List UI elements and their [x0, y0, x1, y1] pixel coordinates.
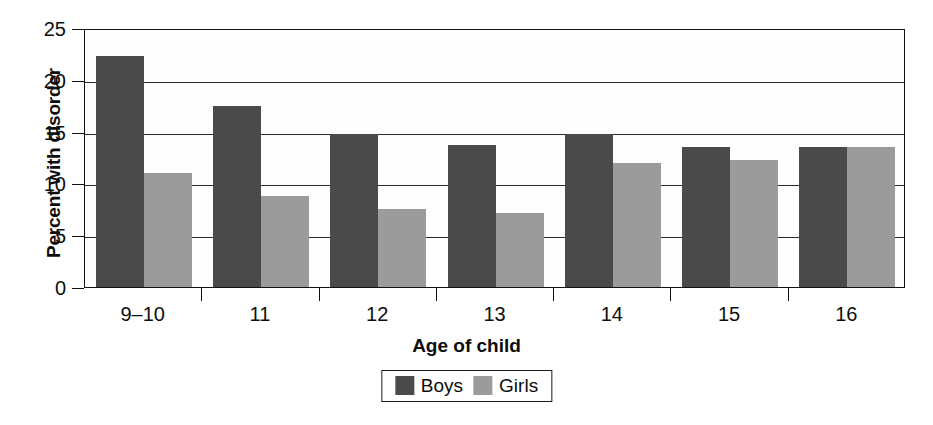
bar-boys-15[interactable] — [682, 147, 730, 287]
bar-group — [799, 30, 895, 287]
bar-boys-16[interactable] — [799, 147, 847, 287]
bar-girls-15[interactable] — [730, 160, 778, 287]
y-tick-label: 15 — [14, 123, 66, 143]
plot-area — [84, 29, 905, 288]
legend-label-boys: Boys — [421, 376, 463, 395]
y-tick-mark — [72, 184, 84, 185]
legend-label-girls: Girls — [499, 376, 538, 395]
bar-group — [213, 30, 309, 287]
x-tick-label: 9–10 — [83, 303, 203, 326]
y-tick-label: 10 — [14, 174, 66, 194]
x-tick-label: 15 — [669, 303, 789, 326]
y-tick-mark — [72, 236, 84, 237]
x-tick-mark — [670, 288, 671, 301]
x-tick-label: 11 — [200, 303, 320, 326]
bar-boys-14[interactable] — [565, 134, 613, 287]
x-tick-mark — [436, 288, 437, 301]
bar-girls-13[interactable] — [496, 213, 544, 287]
legend-swatch-girls — [473, 376, 492, 395]
y-tick-label: 25 — [14, 19, 66, 39]
x-axis-title: Age of child — [0, 335, 933, 357]
bar-girls-16[interactable] — [847, 147, 895, 287]
bar-boys-12[interactable] — [330, 134, 378, 287]
legend-item-boys[interactable]: Boys — [395, 376, 463, 395]
y-tick-label: 20 — [14, 71, 66, 91]
bar-girls-910[interactable] — [144, 173, 192, 287]
y-tick-mark — [72, 29, 84, 30]
x-tick-label: 16 — [786, 303, 906, 326]
x-tick-mark — [553, 288, 554, 301]
y-tick-mark — [72, 133, 84, 134]
legend-swatch-boys — [395, 376, 414, 395]
y-tick-label: 0 — [14, 278, 66, 298]
y-tick-label: 5 — [14, 226, 66, 246]
bar-group — [96, 30, 192, 287]
legend: Boys Girls — [381, 370, 552, 402]
bar-group — [682, 30, 778, 287]
chart-figure: Percent with disorder 0510152025 9–10111… — [0, 0, 933, 425]
x-tick-label: 14 — [552, 303, 672, 326]
x-tick-mark — [788, 288, 789, 301]
bar-group — [448, 30, 544, 287]
x-tick-mark — [319, 288, 320, 301]
y-tick-mark — [72, 288, 84, 289]
bar-girls-14[interactable] — [613, 163, 661, 287]
y-tick-mark — [72, 81, 84, 82]
bar-boys-13[interactable] — [448, 145, 496, 287]
bar-boys-910[interactable] — [96, 56, 144, 287]
bar-girls-11[interactable] — [261, 196, 309, 287]
x-tick-mark — [201, 288, 202, 301]
bar-girls-12[interactable] — [378, 209, 426, 287]
bar-boys-11[interactable] — [213, 106, 261, 287]
x-tick-label: 13 — [435, 303, 555, 326]
bar-group — [565, 30, 661, 287]
legend-item-girls[interactable]: Girls — [473, 376, 538, 395]
bar-group — [330, 30, 426, 287]
x-tick-label: 12 — [317, 303, 437, 326]
